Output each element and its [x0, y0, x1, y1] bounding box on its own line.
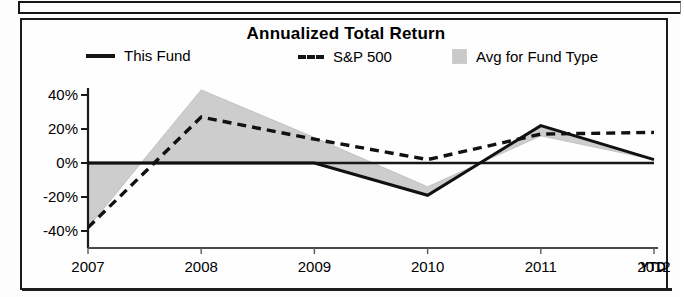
- x-tick-label: 2007: [58, 258, 118, 275]
- x-tick-label: 2009: [284, 258, 344, 275]
- y-tick-label: -20%: [26, 188, 78, 205]
- plot-area: 40%20%0%-20%-40% 20072008200920102011201…: [22, 20, 670, 292]
- x-tick-label: 2010: [398, 258, 458, 275]
- avg-for-fund-type-band: [88, 90, 654, 228]
- outer-frame-divider: [18, 12, 680, 14]
- ytd-label: YTD: [640, 259, 670, 274]
- chart-canvas: [22, 20, 670, 292]
- chart-card: Annualized Total Return This Fund S&P 50…: [20, 18, 668, 290]
- y-tick-label: 0%: [26, 154, 78, 171]
- x-tick-label: 2011: [511, 258, 571, 275]
- y-tick-label: -40%: [26, 222, 78, 239]
- y-tick-label: 20%: [26, 120, 78, 137]
- x-tick-label: 2008: [171, 258, 231, 275]
- y-tick-label: 40%: [26, 86, 78, 103]
- card-bottom-rule: [22, 288, 672, 291]
